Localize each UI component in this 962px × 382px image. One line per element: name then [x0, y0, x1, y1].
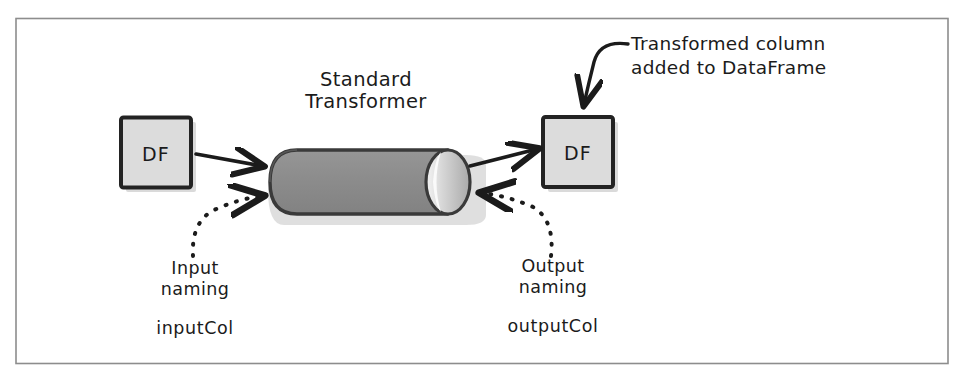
diagram-page: DF StandardTransformer DF: [0, 0, 962, 382]
output-col-param: outputCol: [508, 316, 599, 336]
annotation-text-line-2: added to DataFrame: [631, 57, 827, 78]
input-box-label: DF: [142, 143, 170, 165]
output-naming-line-1: Output: [521, 256, 584, 276]
input-col-param: inputCol: [156, 318, 234, 338]
cylinder-end-cap: [426, 150, 470, 214]
output-box-label: DF: [564, 142, 592, 164]
output-naming-line-2: naming: [519, 277, 587, 297]
standard-transformer-cylinder: [268, 150, 486, 225]
input-naming-line-2: naming: [161, 279, 229, 299]
input-naming-line-1: Input: [171, 258, 218, 278]
transformer-diagram: DF StandardTransformer DF: [0, 0, 962, 382]
transformer-title-line-1: StandardTransformer: [304, 68, 427, 113]
annotation-text-line-1: Transformed column: [630, 33, 826, 54]
cylinder-body: [270, 150, 448, 214]
input-dataframe-box: DF: [121, 118, 196, 193]
output-dataframe-box: DF: [543, 117, 618, 192]
